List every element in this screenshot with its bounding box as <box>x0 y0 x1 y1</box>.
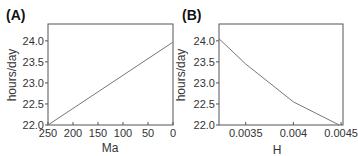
panel-b-y-ticks: 22.022.523.023.524.0 <box>194 35 219 131</box>
x-tick-label: 0.0035 <box>229 127 263 139</box>
x-tick-label: 250 <box>39 127 57 139</box>
panel-a: (A) 22.022.523.023.524.0 250200150100500… <box>5 7 176 155</box>
y-tick-label: 23.0 <box>194 77 215 89</box>
x-tick-label: 100 <box>114 127 132 139</box>
panel-a-series-line <box>48 42 173 125</box>
y-tick-label: 24.0 <box>23 35 44 47</box>
panel-b-y-axis-label: hours/day <box>174 49 188 102</box>
panel-a-y-ticks: 22.022.523.023.524.0 <box>23 35 48 131</box>
y-tick-label: 24.0 <box>194 35 215 47</box>
panel-a-x-axis-label: Ma <box>102 141 119 155</box>
y-tick-label: 22.5 <box>194 98 215 110</box>
x-tick-label: 0.004 <box>280 127 308 139</box>
y-tick-label: 23.5 <box>23 56 44 68</box>
x-tick-label: 50 <box>142 127 154 139</box>
x-tick-label: 0 <box>170 127 176 139</box>
panel-b-x-axis-label: H <box>273 143 282 156</box>
panel-b-series-line <box>219 39 339 125</box>
x-tick-label: 150 <box>89 127 107 139</box>
panel-a-y-axis-label: hours/day <box>5 49 19 102</box>
panel-a-label: (A) <box>6 7 25 23</box>
panel-a-frame <box>48 24 173 125</box>
panel-b-label: (B) <box>182 7 201 23</box>
figure: (A) 22.022.523.023.524.0 250200150100500… <box>0 0 358 156</box>
y-tick-label: 23.5 <box>194 56 215 68</box>
x-tick-label: 0.0045 <box>324 127 358 139</box>
panel-b-frame <box>219 24 343 125</box>
y-tick-label: 22.5 <box>23 98 44 110</box>
y-tick-label: 22.0 <box>194 119 215 131</box>
panel-b: (B) 22.022.523.023.524.0 0.00350.0040.00… <box>174 7 358 156</box>
x-tick-label: 200 <box>64 127 82 139</box>
y-tick-label: 23.0 <box>23 77 44 89</box>
